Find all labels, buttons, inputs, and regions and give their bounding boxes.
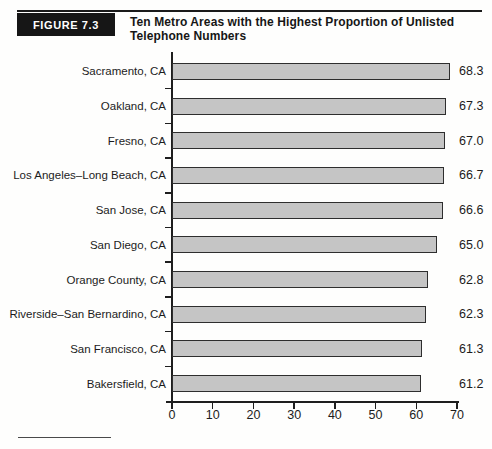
value-label-1: 67.3 — [459, 98, 483, 114]
value-label-9: 61.2 — [459, 376, 483, 392]
category-label-0: Sacramento, CA — [82, 63, 166, 79]
y-axis-tick-7 — [165, 296, 171, 298]
x-axis-tick-label-5: 50 — [361, 408, 391, 422]
bar-3 — [172, 167, 444, 184]
y-axis-tick-3 — [165, 157, 171, 159]
y-axis-tick-5 — [165, 227, 171, 229]
value-label-2: 67.0 — [459, 133, 483, 149]
x-axis-tick-label-7: 70 — [442, 408, 472, 422]
x-axis-tick-label-0: 0 — [157, 408, 187, 422]
category-label-7: Riverside–San Bernardino, CA — [9, 306, 166, 322]
bar-5 — [172, 236, 437, 253]
category-label-5: San Diego, CA — [90, 237, 166, 253]
category-label-8: San Francisco, CA — [70, 341, 166, 357]
x-axis-tick-label-6: 60 — [401, 408, 431, 422]
bar-9 — [172, 375, 421, 392]
value-label-6: 62.8 — [459, 272, 483, 288]
bar-2 — [172, 132, 445, 149]
value-label-0: 68.3 — [459, 63, 483, 79]
y-axis-tick-6 — [165, 261, 171, 263]
category-label-3: Los Angeles–Long Beach, CA — [13, 167, 166, 183]
y-axis-tick-8 — [165, 331, 171, 333]
category-label-1: Oakland, CA — [101, 98, 166, 114]
footnote-rule — [18, 437, 111, 438]
y-axis-tick-4 — [165, 192, 171, 194]
value-label-8: 61.3 — [459, 341, 483, 357]
category-label-2: Fresno, CA — [108, 133, 166, 149]
bar-0 — [172, 63, 450, 80]
x-axis-tick-label-2: 20 — [238, 408, 268, 422]
value-label-3: 66.7 — [459, 167, 483, 183]
bar-4 — [172, 202, 443, 219]
bar-8 — [172, 340, 422, 357]
x-axis-tick-label-3: 30 — [279, 408, 309, 422]
x-axis-tick-label-1: 10 — [198, 408, 228, 422]
category-label-4: San Jose, CA — [96, 202, 166, 218]
bar-6 — [172, 271, 428, 288]
y-axis-tick-9 — [165, 366, 171, 368]
value-label-5: 65.0 — [459, 237, 483, 253]
category-label-6: Orange County, CA — [66, 272, 166, 288]
value-label-4: 66.6 — [459, 202, 483, 218]
bar-1 — [172, 98, 446, 115]
y-axis-tick-1 — [165, 88, 171, 90]
bar-7 — [172, 306, 426, 323]
value-label-7: 62.3 — [459, 306, 483, 322]
x-axis-tick-label-4: 40 — [320, 408, 350, 422]
bar-chart: Sacramento, CA68.3Oakland, CA67.3Fresno,… — [0, 0, 492, 449]
category-label-9: Bakersfield, CA — [87, 376, 166, 392]
figure-7-3-page: FIGURE 7.3 Ten Metro Areas with the High… — [0, 0, 492, 449]
y-axis-tick-2 — [165, 123, 171, 125]
